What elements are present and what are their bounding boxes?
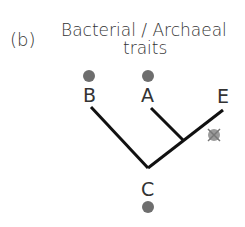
tree-branches xyxy=(91,107,223,168)
phylogeny-tree: B A E C xyxy=(0,0,245,227)
node-label-b: B xyxy=(83,84,96,106)
trait-dot-b xyxy=(83,70,95,82)
trait-dot-a xyxy=(142,70,154,82)
trait-dot-c xyxy=(142,201,154,213)
node-label-e: E xyxy=(217,85,229,107)
node-label-a: A xyxy=(141,84,154,106)
branch-a xyxy=(151,108,183,140)
trait-lost-icon-e xyxy=(208,129,220,141)
branch-b xyxy=(91,107,148,168)
node-label-c: C xyxy=(141,178,154,200)
